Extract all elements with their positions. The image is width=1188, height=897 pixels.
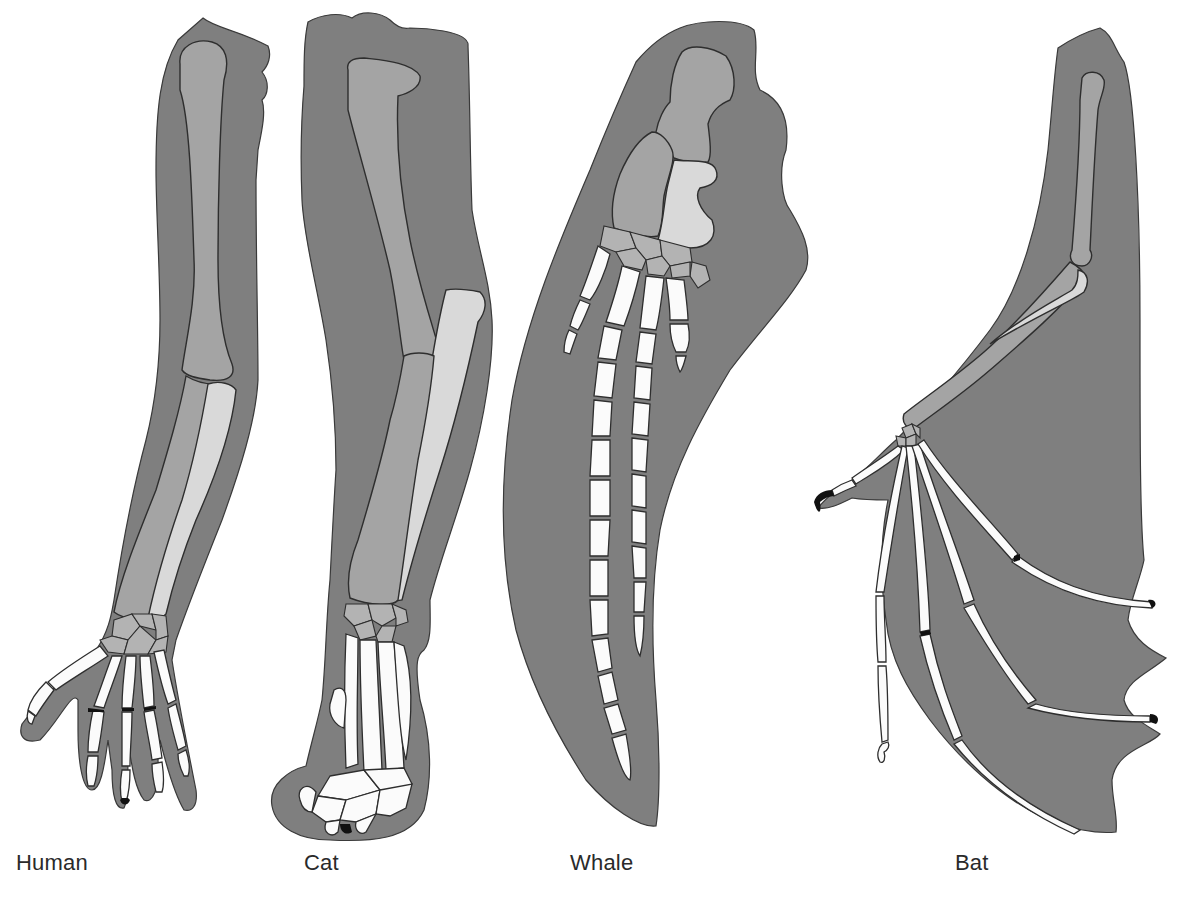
bat-wing: [814, 28, 1166, 834]
label-cat: Cat: [304, 850, 339, 876]
cat-leg: [272, 13, 493, 841]
label-whale: Whale: [570, 850, 633, 876]
bat-wing-membrane: [818, 28, 1166, 832]
whale-flipper: [503, 22, 807, 827]
label-human: Human: [16, 850, 88, 876]
human-arm: [21, 18, 270, 810]
label-bat: Bat: [955, 850, 989, 876]
bat-finger-claw: [878, 742, 889, 762]
bat-carpals: [896, 424, 920, 446]
limb-diagram: [0, 0, 1188, 897]
